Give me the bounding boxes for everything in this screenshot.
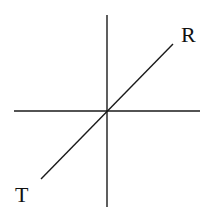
label-t: T bbox=[15, 182, 29, 207]
axes-diagram: R T bbox=[0, 0, 208, 211]
label-r: R bbox=[181, 22, 196, 47]
